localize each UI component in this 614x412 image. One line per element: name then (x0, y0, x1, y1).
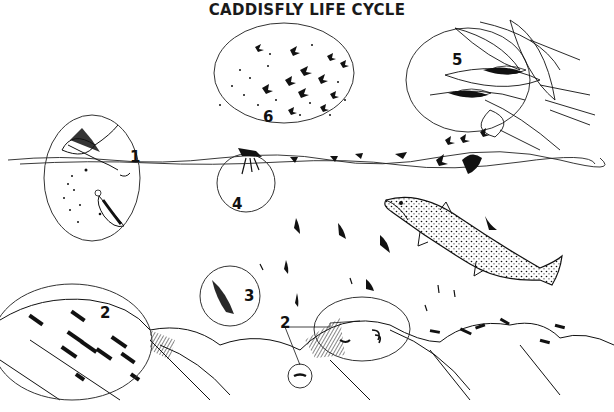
stage-2-larvae: 2 2 (0, 284, 410, 400)
stage-2-label-left: 2 (100, 304, 110, 322)
rock-shadow-right (305, 318, 345, 358)
surface-insects (290, 152, 407, 163)
trout (385, 197, 562, 285)
stage-5-label: 5 (452, 51, 462, 69)
stage-6-swarm: 6 (214, 23, 354, 126)
stage-5-vegetation: 5 (406, 20, 595, 150)
stage-6-label: 6 (263, 108, 273, 126)
stage-1-label: 1 (130, 148, 140, 166)
stage-1-egg-laying: 1 (44, 115, 140, 241)
stage-3-label: 3 (244, 287, 254, 305)
stage-4-label: 4 (232, 195, 242, 213)
rock-shadow-left (150, 330, 175, 360)
stage-3-pupa: 3 (200, 266, 260, 326)
caddisfly-illustration: 6 5 (0, 0, 614, 412)
stage-2-label-right: 2 (280, 314, 290, 332)
